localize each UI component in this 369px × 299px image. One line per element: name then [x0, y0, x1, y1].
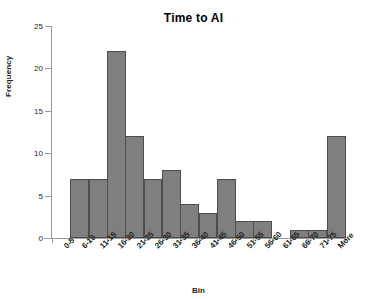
- x-axis-tick-labels: 0-56-1011-1516-2021-2526-3031-3536-4041-…: [0, 0, 369, 299]
- x-tick-label: 26-30: [153, 230, 173, 250]
- x-tick-label: 61-65: [281, 230, 301, 250]
- x-tick-label: 31-35: [171, 230, 191, 250]
- x-tick-label: 46-50: [226, 230, 246, 250]
- x-tick-label: 21-25: [135, 230, 155, 250]
- x-tick-label: 41-45: [208, 230, 228, 250]
- histogram-chart: Time to AI 0510152025 0-56-1011-1516-202…: [0, 0, 369, 299]
- x-tick-label: 11-15: [98, 230, 118, 250]
- x-tick-label: 16-20: [116, 230, 136, 250]
- x-tick-label: 6-10: [80, 233, 97, 250]
- x-tick-label: 71-75: [318, 230, 338, 250]
- x-tick-label: 0-5: [62, 236, 76, 250]
- x-tick-label: More: [336, 231, 356, 251]
- x-axis-title: Bin: [52, 286, 345, 295]
- x-tick-label: 51-55: [245, 230, 265, 250]
- x-tick-label: 66-70: [300, 230, 320, 250]
- y-axis-title: Frequency: [4, 56, 13, 97]
- x-tick-label: 56-60: [263, 230, 283, 250]
- x-tick-label: 36-40: [190, 230, 210, 250]
